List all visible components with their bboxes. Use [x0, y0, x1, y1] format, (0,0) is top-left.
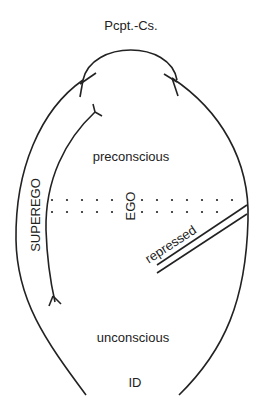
id-label: ID [129, 375, 142, 390]
freud-structural-diagram: Pcpt.-Cs. [0, 0, 262, 417]
unconscious-label: unconscious [97, 330, 170, 345]
pcpt-cs-dome [83, 50, 177, 80]
superego-inner-boundary [46, 112, 95, 302]
superego-label: SUPEREGO [28, 178, 43, 252]
dotted-boundary-upper [51, 199, 233, 201]
ego-label: EGO [123, 192, 138, 221]
outer-boundary-left [16, 80, 86, 395]
repressed-label: repressed [142, 222, 199, 266]
superego-top-fork [93, 104, 102, 116]
left-junction-ticks [80, 73, 96, 97]
pcpt-cs-label: Pcpt.-Cs. [104, 18, 157, 33]
preconscious-label: preconscious [93, 149, 170, 164]
